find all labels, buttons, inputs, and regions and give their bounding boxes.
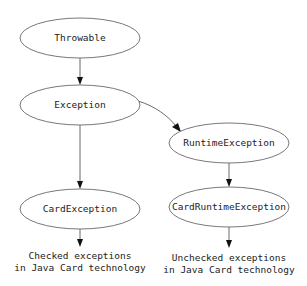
- node-label: Throwable: [54, 32, 106, 43]
- checked-label-line2: in Java Card technology: [14, 262, 146, 273]
- arrowhead-icon: [226, 240, 232, 248]
- unchecked-label-line1: Unchecked exceptions: [172, 252, 286, 263]
- exception-hierarchy-diagram: Throwable Exception RuntimeException Car…: [0, 0, 307, 286]
- node-label: CardException: [43, 203, 117, 214]
- node-label: RuntimeException: [183, 137, 275, 148]
- arrowhead-icon: [77, 77, 83, 85]
- node-card-runtime-exception: CardRuntimeException: [169, 187, 289, 227]
- arrowhead-icon: [77, 239, 83, 247]
- node-runtime-exception: RuntimeException: [169, 123, 289, 163]
- checked-exceptions-label: Checked exceptions in Java Card technolo…: [14, 250, 146, 273]
- node-card-exception: CardException: [20, 189, 140, 229]
- arrowhead-icon: [172, 123, 181, 132]
- node-throwable: Throwable: [20, 18, 140, 58]
- unchecked-label-line2: in Java Card technology: [163, 264, 295, 275]
- unchecked-exceptions-label: Unchecked exceptions in Java Card techno…: [163, 252, 295, 275]
- arrowhead-icon: [226, 179, 232, 187]
- node-label: Exception: [54, 99, 105, 110]
- checked-label-line1: Checked exceptions: [29, 250, 132, 261]
- arrowhead-icon: [77, 181, 83, 189]
- node-label: CardRuntimeException: [172, 201, 286, 212]
- edge-exception-runtimeexception: [138, 101, 176, 126]
- node-exception: Exception: [20, 85, 140, 125]
